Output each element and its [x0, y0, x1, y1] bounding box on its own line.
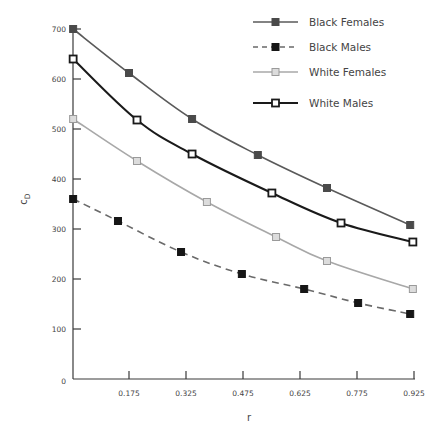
y-tick-label: 600	[52, 75, 67, 84]
data-point-marker	[70, 116, 77, 123]
y-tick-label: 100	[52, 325, 67, 334]
data-point-marker	[409, 286, 416, 293]
series-black-females	[70, 26, 414, 229]
data-point-marker	[70, 56, 77, 63]
data-point-marker	[409, 239, 416, 246]
series-line	[73, 59, 413, 242]
data-point-marker	[273, 234, 280, 241]
series-black-males	[70, 196, 414, 318]
data-point-marker	[70, 196, 77, 203]
data-point-marker	[323, 258, 330, 265]
y-tick-label: 400	[52, 175, 67, 184]
legend-label: Black Males	[309, 41, 371, 53]
legend-item-white-females: White Females	[253, 66, 386, 78]
x-tick-label: 0.175	[118, 389, 140, 398]
data-point-marker	[254, 152, 261, 159]
x-tick-label: 0.475	[232, 389, 254, 398]
chart: 01002003004005006007000.1750.3250.4750.6…	[0, 0, 437, 435]
y-tick-label: 0	[61, 377, 66, 386]
x-axis-label: r	[247, 412, 252, 423]
y-axis-label: cD	[18, 193, 32, 205]
y-tick-label: 700	[52, 25, 67, 34]
data-point-marker	[203, 199, 210, 206]
y-tick-label: 200	[52, 275, 67, 284]
data-point-marker	[114, 218, 121, 225]
data-point-marker	[189, 116, 196, 123]
legend-marker	[272, 44, 279, 51]
series-line	[73, 199, 410, 314]
data-point-marker	[323, 185, 330, 192]
data-point-marker	[407, 311, 414, 318]
data-point-marker	[70, 26, 77, 33]
legend-item-white-males: White Males	[253, 97, 373, 109]
y-tick-label: 300	[52, 225, 67, 234]
y-tick-label: 500	[52, 125, 67, 134]
legend-marker	[272, 19, 279, 26]
legend-item-black-males: Black Males	[253, 41, 371, 53]
data-point-marker	[338, 220, 345, 227]
series-line	[73, 29, 410, 225]
legend-label: White Females	[309, 66, 386, 78]
data-point-marker	[301, 286, 308, 293]
data-point-marker	[133, 117, 140, 124]
x-tick-label: 0.925	[403, 389, 425, 398]
legend: Black FemalesBlack MalesWhite FemalesWhi…	[253, 16, 386, 109]
legend-marker	[272, 69, 279, 76]
data-point-marker	[126, 70, 133, 77]
data-point-marker	[238, 271, 245, 278]
data-point-marker	[355, 300, 362, 307]
data-point-marker	[407, 222, 414, 229]
x-tick-label: 0.775	[346, 389, 368, 398]
data-point-marker	[189, 151, 196, 158]
x-tick-label: 0.625	[289, 389, 311, 398]
x-tick-label: 0.325	[175, 389, 197, 398]
data-point-marker	[133, 158, 140, 165]
axes: 01002003004005006007000.1750.3250.4750.6…	[18, 25, 425, 423]
legend-label: Black Females	[309, 16, 384, 28]
legend-marker	[272, 100, 279, 107]
data-point-marker	[178, 249, 185, 256]
data-point-marker	[268, 190, 275, 197]
legend-label: White Males	[309, 97, 373, 109]
legend-item-black-females: Black Females	[253, 16, 384, 28]
